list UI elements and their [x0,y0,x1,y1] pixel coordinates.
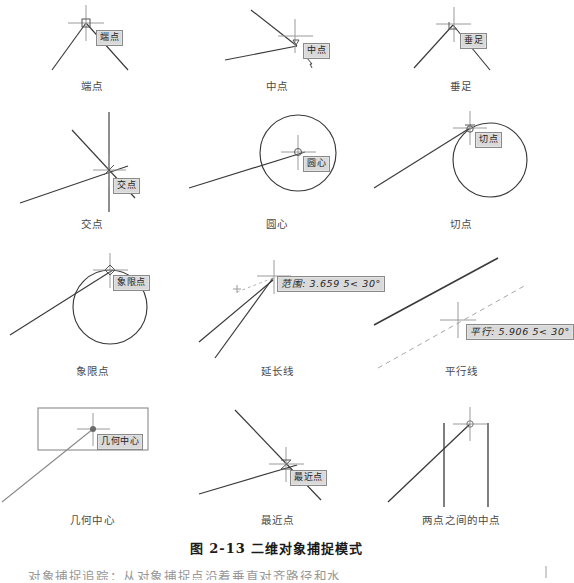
panel-mid-between-two: 两点之间的中点 [370,392,553,536]
figure-caption: 图 2-13 二维对象捕捉模式 [0,538,553,557]
panel-endpoint: 端点 端点 [0,0,185,100]
line-through [189,152,305,188]
line-left [52,23,86,70]
sub-caption-nearest: 最近点 [185,512,370,527]
sub-caption-quadrant: 象限点 [0,363,185,378]
tooltip-parallel: 平行: 5.906 5< 30° [466,324,574,340]
line-source [374,258,498,325]
panel-extension: 范围: 3.659 5< 30° 延长线 [185,250,370,385]
panel-midpoint: 中点 中点 [185,0,370,100]
panel-geometric-center: 几何中心 几何中心 [0,392,185,536]
tooltip-midpoint: 中点 [303,43,330,59]
body-paragraph-text: 对象捕捉追踪：从对象捕捉点沿着垂直对齐路径和水 [28,566,528,580]
sub-caption-perpendicular: 垂足 [370,78,553,93]
sub-caption-tangent: 切点 [370,216,553,231]
sub-caption-midpoint: 中点 [185,78,370,93]
sub-caption-intersection: 交点 [0,216,185,231]
object-snap-figure-grid: 端点 端点 中点 中点 [0,0,553,536]
tooltip-endpoint: 端点 [96,30,123,46]
page-edge-mark [545,566,547,578]
line-upper [251,10,297,46]
sub-caption-center: 圆心 [185,216,370,231]
panel-intersection: 交点 交点 [0,108,185,238]
panel-quadrant: 象限点 象限点 [0,250,185,385]
tooltip-perpendicular: 垂足 [460,33,487,49]
mouse-pointer-icon [307,58,312,68]
line-diagonal [235,410,321,500]
line-lower [225,46,297,60]
line-through [10,270,113,335]
panel-tangent: 切点 切点 [370,108,553,238]
sub-caption-endpoint: 端点 [0,78,185,93]
tooltip-center: 圆心 [303,156,330,172]
tooltip-extension: 范围: 3.659 5< 30° [277,276,385,292]
sub-caption-parallel: 平行线 [370,363,553,378]
panel-center: 圆心 圆心 [185,108,370,238]
sub-caption-extension: 延长线 [185,363,370,378]
line-shallow [20,166,128,203]
sub-caption-mid-between-two: 两点之间的中点 [370,512,553,527]
tooltip-intersection: 交点 [113,178,140,194]
line-left [414,25,453,68]
panel-perpendicular: 垂足 垂足 [370,0,553,100]
tooltip-quadrant: 象限点 [113,275,150,291]
line-diagonal [388,424,470,502]
panel-nearest: 最近点 最近点 [185,392,370,536]
line-main [215,278,273,358]
geometric-center-marker-icon [90,426,96,432]
tooltip-nearest: 最近点 [290,470,327,486]
line-pointer [2,429,93,502]
line-tangent [374,128,470,188]
sub-caption-geometric-center: 几何中心 [0,512,185,527]
panel-parallel: 平行: 5.906 5< 30° 平行线 [370,250,553,385]
tooltip-tangent: 切点 [475,132,502,148]
tooltip-geometric-center: 几何中心 [97,434,143,450]
